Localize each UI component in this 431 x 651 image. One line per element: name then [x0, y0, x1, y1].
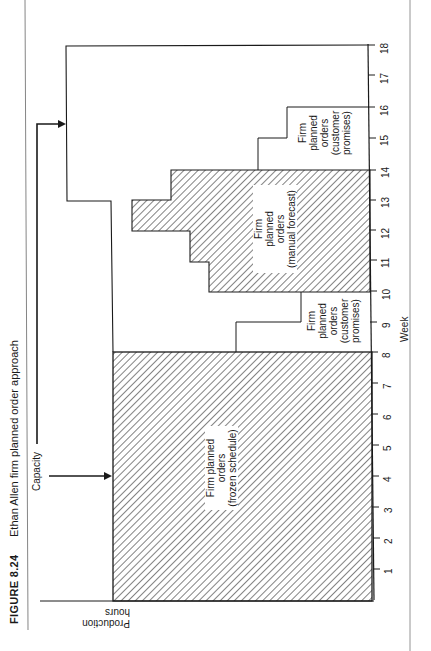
y-axis-title-line-2: hours	[70, 607, 130, 618]
capacity-arrows	[37, 120, 112, 480]
tick-label-17: 17	[379, 73, 390, 84]
tick-label-9: 9	[381, 322, 392, 328]
cust-high-line-1: Firm	[297, 108, 308, 158]
tick-label-3: 3	[383, 507, 394, 513]
tick-label-7: 7	[382, 383, 393, 389]
customer-promises-high-label: Firm planned orders (customer promises)	[297, 108, 352, 158]
frozen-label-line-2: orders	[216, 428, 227, 508]
frozen-schedule-block	[113, 352, 372, 601]
frozen-label-line-3: (frozen schedule)	[227, 428, 238, 508]
x-axis-title: Week	[399, 317, 410, 342]
tick-label-12: 12	[380, 228, 391, 239]
capacity-label: Capacity	[31, 452, 42, 491]
cust-low-line-4: (customer	[339, 292, 350, 350]
frozen-schedule-label: Firm planned orders (frozen schedule)	[205, 426, 238, 510]
tick-label-6: 6	[382, 414, 393, 420]
tick-label-16: 16	[379, 105, 390, 116]
tick-label-14: 14	[380, 167, 391, 178]
tick-label-11: 11	[380, 258, 391, 268]
y-axis-title-line-1: Production	[70, 618, 130, 629]
chart-canvas	[0, 0, 431, 651]
tick-label-8: 8	[381, 352, 392, 358]
tick-label-15: 15	[379, 135, 390, 146]
tick-label-2: 2	[383, 538, 394, 544]
manual-line-2: planned	[264, 187, 275, 271]
figure-number: FIGURE 8.24	[8, 555, 20, 624]
cust-low-line-1: Firm	[306, 292, 317, 350]
customer-promises-low-outline	[236, 292, 301, 352]
left-page-rule	[25, 0, 28, 630]
customer-promises-low-label: Firm planned orders (customer promises)	[306, 292, 361, 350]
figure-title: Ethan Allen firm planned order approach	[8, 340, 20, 537]
frozen-label-line-1: Firm planned	[205, 428, 216, 508]
manual-line-4: (manual forecast)	[286, 187, 297, 271]
cust-low-line-3: orders	[328, 292, 339, 350]
y-axis-title: Production hours	[70, 607, 130, 629]
tick-label-1: 1	[383, 568, 394, 574]
tick-label-4: 4	[382, 476, 393, 482]
tick-label-10: 10	[381, 289, 392, 300]
manual-forecast-block	[132, 170, 370, 292]
manual-line-1: Firm	[253, 187, 264, 271]
cust-high-line-4: (customer	[330, 108, 341, 158]
tick-label-18: 18	[379, 43, 390, 54]
cust-high-line-2: planned	[308, 108, 319, 158]
tick-label-13: 13	[380, 197, 391, 208]
cust-low-line-2: planned	[317, 292, 328, 350]
manual-forecast-label: Firm planned orders (manual forecast)	[253, 185, 297, 273]
cust-high-line-3: orders	[319, 108, 330, 158]
manual-line-3: orders	[275, 187, 286, 271]
tick-label-5: 5	[382, 445, 393, 451]
cust-high-line-5: promises)	[341, 108, 352, 158]
cust-low-line-5: promises)	[350, 292, 361, 350]
